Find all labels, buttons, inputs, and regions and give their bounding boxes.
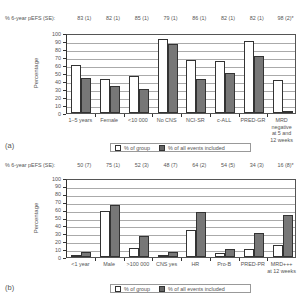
gridline [67, 188, 295, 189]
legend-item-group: % of group [115, 286, 150, 292]
x-category-line: at 12 weeks [265, 268, 298, 275]
panel-label: (b) [5, 283, 14, 292]
legend-label: % of group [124, 286, 150, 292]
y-tick-mark [63, 234, 66, 235]
y-tick-mark [63, 179, 66, 180]
pefs-value: 54 (5) [221, 162, 235, 168]
y-tick-mark [63, 211, 66, 212]
bar-percent-of-group [100, 211, 110, 257]
y-tick-label: 80 [47, 191, 61, 197]
y-tick-label: 90 [47, 183, 61, 189]
gridline [67, 204, 295, 205]
y-tick-label: 30 [47, 231, 61, 237]
bar-percent-of-group [215, 253, 225, 257]
y-tick-label: 70 [47, 199, 61, 205]
legend: % of group% of all events included [110, 284, 251, 293]
bar-percent-of-events [110, 205, 120, 257]
pefs-value: 64 (2) [192, 162, 206, 168]
bar-percent-of-group [186, 230, 196, 257]
pefs-row-label: % 6-year pEFS (SE): [5, 162, 55, 168]
y-tick-mark [63, 187, 66, 188]
y-tick-label: 50 [47, 215, 61, 221]
x-category-line: MRD+++ [265, 261, 298, 268]
y-tick-mark [63, 195, 66, 196]
bar-percent-of-events [81, 252, 91, 257]
gridline [67, 196, 295, 197]
bar-percent-of-events [168, 252, 178, 257]
bar-percent-of-events [139, 236, 149, 257]
y-tick-label: 40 [47, 223, 61, 229]
legend-swatch-grey [159, 286, 165, 292]
y-tick-label: 100 [47, 176, 61, 182]
bar-percent-of-events [225, 249, 235, 257]
y-tick-label: 60 [47, 207, 61, 213]
y-tick-label: 10 [47, 247, 61, 253]
pefs-value: 50 (7) [77, 162, 91, 168]
y-tick-mark [63, 203, 66, 204]
chart-panel-b: % 6-year pEFS (SE):50 (7)75 (1)52 (3)48 … [0, 0, 304, 298]
legend-swatch-white [115, 286, 121, 292]
pefs-value: 52 (3) [135, 162, 149, 168]
bar-percent-of-group [129, 248, 139, 257]
y-tick-mark [63, 258, 66, 259]
legend-item-events: % of all events included [159, 286, 225, 292]
bar-percent-of-events [196, 212, 206, 257]
bar-percent-of-group [244, 249, 254, 257]
bar-percent-of-group [158, 255, 168, 257]
pefs-value: 75 (1) [106, 162, 120, 168]
bar-percent-of-events [254, 233, 264, 257]
y-tick-label: 0 [47, 255, 61, 261]
pefs-value: 16 (8)* [278, 162, 294, 168]
y-tick-mark [63, 242, 66, 243]
bar-percent-of-events [283, 215, 293, 257]
y-tick-label: 20 [47, 239, 61, 245]
y-tick-mark [63, 226, 66, 227]
pefs-value: 34 (3) [250, 162, 264, 168]
legend-label: % of all events included [168, 286, 225, 292]
bar-percent-of-group [273, 245, 283, 257]
y-tick-mark [63, 219, 66, 220]
plot-area [66, 179, 296, 258]
y-axis-label: Percentage [33, 198, 39, 238]
x-category-label: MRD+++at 12 weeks [265, 261, 298, 274]
bar-percent-of-group [71, 255, 81, 257]
pefs-value: 48 (7) [164, 162, 178, 168]
y-tick-mark [63, 250, 66, 251]
